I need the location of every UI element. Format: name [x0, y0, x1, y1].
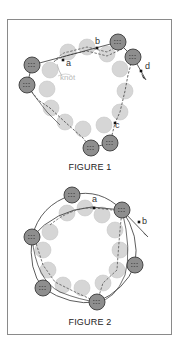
light-bead [42, 224, 58, 240]
figure-1-caption: FIGURE 1 [68, 162, 111, 172]
point-label-c: c [115, 120, 120, 130]
knot-label: knot [60, 73, 76, 82]
dark-bead [125, 49, 141, 65]
light-bead [39, 81, 55, 97]
light-bead [112, 61, 128, 77]
figure-2-caption: FIGURE 2 [68, 317, 111, 327]
point-label-a: a [92, 194, 97, 204]
point-label-b: b [95, 36, 100, 46]
light-bead [75, 121, 91, 137]
point-marker [96, 47, 99, 50]
light-bead [96, 117, 112, 133]
dark-bead [114, 202, 130, 218]
light-bead [112, 242, 128, 258]
dark-bead [19, 77, 35, 93]
point-label-b: b [142, 216, 147, 226]
dark-bead [83, 140, 99, 156]
point-marker [138, 221, 141, 224]
dark-bead [127, 257, 143, 273]
figure-1: abcd knot FIGURE 1 [19, 34, 150, 172]
point-marker [62, 59, 65, 62]
point-marker [114, 122, 117, 125]
dark-bead [64, 187, 80, 203]
point-marker [140, 70, 143, 73]
dark-bead [102, 135, 118, 151]
light-bead [43, 100, 59, 116]
dark-bead [89, 294, 105, 310]
point-label-a: a [66, 58, 71, 68]
light-beads [35, 200, 128, 296]
point-label-d: d [145, 61, 150, 71]
bead-stitching-diagram: abcd knot FIGURE 1 ab FIGURE 2 [0, 0, 180, 349]
light-bead [59, 205, 75, 221]
light-bead [42, 62, 58, 78]
dark-bead [24, 229, 40, 245]
dark-bead [110, 34, 126, 50]
dark-bead [35, 280, 51, 296]
light-bead [95, 275, 111, 291]
light-bead [74, 280, 90, 296]
dark-bead [24, 57, 40, 73]
figure-2: ab FIGURE 2 [24, 187, 148, 327]
light-bead [35, 242, 51, 258]
point-marker [93, 207, 96, 210]
